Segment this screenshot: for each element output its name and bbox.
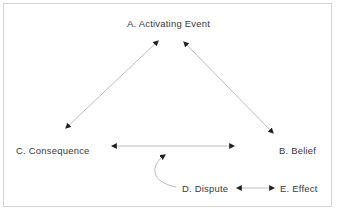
node-b-label: B. Belief: [279, 145, 316, 156]
node-c-label: C. Consequence: [16, 145, 90, 156]
node-a-label: A. Activating Event: [127, 18, 210, 29]
node-e-label: E. Effect: [280, 183, 318, 194]
edge-d-curve: [155, 155, 176, 187]
edge-a-b: [184, 42, 273, 133]
node-d-label: D. Dispute: [182, 183, 228, 194]
arrows-layer: [0, 0, 338, 211]
edge-a-c: [66, 41, 158, 128]
